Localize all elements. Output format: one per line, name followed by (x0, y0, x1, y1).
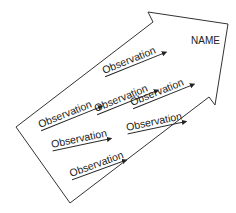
diagram-canvas: NAME Observation Observation Observation… (0, 0, 236, 213)
name-label: NAME (191, 35, 220, 46)
